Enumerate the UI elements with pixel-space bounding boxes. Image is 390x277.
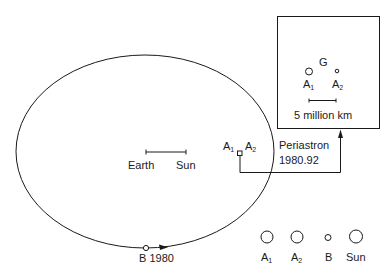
sun-label: Sun	[176, 159, 196, 171]
orbit-diagram: Earth Sun A1 A2 Periastron 1980.92 B 198…	[0, 0, 390, 277]
periastron-epoch: 1980.92	[279, 154, 319, 166]
earth-label: Earth	[128, 159, 154, 171]
size-legend: A1 A2 B Sun	[261, 230, 366, 264]
companion-b-marker	[143, 245, 148, 250]
inset-star-a1	[306, 68, 313, 75]
legend-circle-b	[325, 235, 331, 241]
legend-circle-a2	[291, 231, 303, 243]
legend-label-sun: Sun	[346, 251, 366, 263]
orbit-ellipse	[16, 55, 274, 248]
binary-position-marker	[238, 151, 243, 156]
periastron-label: Periastron	[279, 139, 329, 151]
legend-circle-a1	[261, 231, 273, 243]
legend-label-a2: A2	[291, 251, 302, 264]
inset-scale-label: 5 million km	[294, 109, 352, 121]
binary-label-a2: A2	[245, 140, 256, 153]
legend-label-b: B	[325, 251, 332, 263]
connector-arrow-icon	[338, 130, 343, 139]
inset-scale-bar	[309, 99, 336, 103]
legend-circle-sun	[350, 230, 363, 243]
binary-label-a1: A1	[223, 140, 234, 153]
inset-label-a2: A2	[332, 78, 343, 91]
inset-star-a2	[335, 69, 339, 73]
orbit-direction-arrow-icon	[159, 245, 168, 251]
companion-b-label: B 1980	[139, 252, 174, 264]
earth-sun-scale-bar	[146, 150, 186, 155]
inset-center-of-mass-label: G	[319, 56, 328, 68]
inset-label-a1: A1	[303, 78, 314, 91]
legend-label-a1: A1	[261, 251, 272, 264]
